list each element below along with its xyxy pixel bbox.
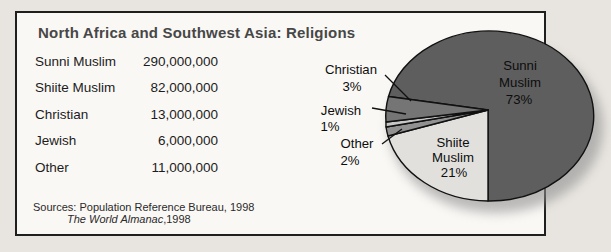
- other-label: Other: [341, 136, 375, 151]
- sunni-label-line1: Sunni: [503, 58, 537, 73]
- row-label: Jewish: [35, 133, 76, 148]
- christian-label: Christian: [325, 62, 377, 77]
- table-row: Christian 13,000,000: [35, 101, 218, 128]
- row-label: Other: [35, 160, 69, 175]
- sunni-label-line2: Muslim: [499, 75, 541, 90]
- row-value: 82,000,000: [150, 80, 218, 95]
- shiite-label-line2: Muslim: [432, 150, 474, 165]
- sources-line-2: The World Almanac,1998: [67, 213, 191, 225]
- row-value: 6,000,000: [158, 133, 218, 148]
- sources-line-1: Sources: Population Reference Bureau, 19…: [33, 201, 254, 213]
- jewish-pct: 1%: [320, 119, 339, 134]
- figure-canvas: North Africa and Southwest Asia: Religio…: [0, 0, 611, 252]
- row-value: 11,000,000: [151, 160, 218, 175]
- christian-pct: 3%: [342, 79, 361, 94]
- jewish-label: Jewish: [321, 103, 361, 118]
- religion-table: Sunni Muslim 290,000,000 Shiite Muslim 8…: [35, 48, 218, 181]
- table-row: Sunni Muslim 290,000,000: [35, 48, 218, 75]
- table-row: Other 11,000,000: [35, 154, 218, 181]
- table-row: Shiite Muslim 82,000,000: [35, 75, 218, 102]
- shiite-label-pct: 21%: [441, 165, 468, 180]
- sunni-label-pct: 73%: [506, 92, 533, 107]
- row-label: Christian: [35, 107, 88, 122]
- row-value: 13,000,000: [150, 107, 218, 122]
- pie-chart-svg: Christian 3% Jewish 1% Other 2% Sunni Mu…: [280, 0, 611, 252]
- source-title-italic: The World Almanac: [67, 213, 163, 225]
- shiite-label-line1: Shiite: [437, 135, 470, 150]
- source-year: ,1998: [163, 213, 191, 225]
- row-label: Shiite Muslim: [35, 80, 115, 95]
- row-label: Sunni Muslim: [35, 54, 116, 69]
- row-value: 290,000,000: [143, 54, 218, 69]
- other-pct: 2%: [340, 153, 359, 168]
- table-row: Jewish 6,000,000: [35, 128, 218, 155]
